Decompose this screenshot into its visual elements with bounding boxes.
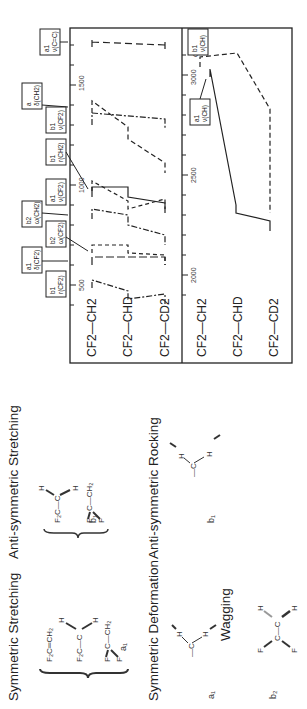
tick-3000: 3000	[190, 69, 197, 85]
svg-text:b1: b1	[49, 286, 56, 294]
tick-500: 500	[78, 279, 85, 291]
molecule-sym-stretch: F₂C═CH₂ F₂C—C H H F C—CH₂ F	[40, 617, 128, 678]
svg-text:δ(CH2): δ(CH2)	[33, 85, 41, 106]
svg-text:F: F	[103, 657, 112, 662]
tick-1000: 1000	[78, 177, 85, 193]
svg-text:F₂C═CH₂: F₂C═CH₂	[45, 628, 54, 662]
svg-text:H: H	[91, 617, 100, 623]
box-b2-omega-cf2: b2 ω(CF2)	[46, 221, 88, 251]
box-a1-delta-cf2: a1 δ(CF2)	[22, 247, 68, 273]
box-b1-nu-ch: b1 ν(CH)	[188, 29, 208, 55]
svg-text:—C: —C	[187, 643, 196, 657]
svg-text:ν(CH): ν(CH)	[199, 35, 207, 52]
box-a-delta-ch2: a δ(CH2)	[22, 83, 68, 109]
molecule-sym-deform: —C H H	[172, 625, 216, 657]
svg-text:H: H	[175, 631, 184, 637]
panel2-lines	[200, 53, 270, 231]
svg-text:H: H	[201, 631, 210, 637]
line-nu-ch-a1	[210, 69, 270, 231]
axis-ticks-panel2	[182, 55, 188, 295]
svg-text:F: F	[290, 648, 299, 653]
chart-frame	[70, 28, 292, 363]
svg-text:b1: b1	[191, 44, 198, 52]
svg-text:ν(CH): ν(CH)	[201, 105, 209, 122]
molecule-wagging: F F C—C H H	[256, 605, 299, 653]
molecule-anti-stretch: F₂C—C H H F C—CH₂ F	[37, 483, 108, 538]
svg-text:F: F	[115, 657, 124, 662]
box-a1-nu-ch: a1 ν(CH)	[190, 79, 210, 125]
svg-text:H: H	[57, 617, 66, 623]
tick-2500: 2500	[190, 167, 197, 183]
svg-text:a1: a1	[193, 114, 200, 122]
svg-text:ω(CF2): ω(CF2)	[57, 222, 65, 244]
line-delta-cf2	[92, 257, 165, 265]
box-a1-nu-cf2: a1 ν(CF2)	[46, 179, 66, 205]
svg-text:r(CH2): r(CH2)	[57, 143, 65, 163]
svg-text:C—CH₂: C—CH₂	[103, 621, 112, 649]
axis-ticks-panel1	[70, 45, 76, 305]
svg-text:b2: b2	[25, 216, 32, 224]
svg-text:H: H	[256, 605, 265, 611]
svg-text:C—C: C—C	[273, 621, 282, 641]
tick-1500: 1500	[78, 75, 85, 91]
row-label-cf2-ch2: CF2—CH2	[85, 298, 99, 357]
rotated-figure: Symmetric Stretching Anti-symmetric Stre…	[0, 0, 307, 709]
row-label2-cf2-chd: CF2—CHD	[231, 296, 245, 357]
svg-text:H: H	[71, 485, 80, 491]
svg-text:ω(CH2): ω(CH2)	[33, 202, 41, 224]
svg-text:F₂C—C: F₂C—C	[75, 634, 84, 662]
tick-2000: 2000	[190, 267, 197, 283]
line-omega-ch2	[92, 209, 165, 245]
row-label2-cf2-ch2: CF2—CH2	[195, 298, 209, 357]
line-nu-cf2-b1	[92, 113, 165, 129]
line-nu-cc	[92, 37, 165, 49]
svg-text:ν(CF2): ν(CF2)	[57, 110, 65, 130]
svg-text:a1: a1	[43, 44, 50, 52]
svg-text:F: F	[85, 518, 94, 523]
svg-text:a1: a1	[25, 262, 32, 270]
row-label2-cf2-cd2: CF2—CD2	[267, 298, 281, 357]
svg-text:H: H	[37, 485, 46, 491]
molecule-anti-rock: —C H H	[170, 435, 220, 477]
svg-text:r(CF2): r(CF2)	[57, 275, 65, 294]
row-label-cf2-chd: CF2—CHD	[121, 296, 135, 357]
svg-text:ν(C=C): ν(C=C)	[51, 31, 59, 52]
box-b1-nu-cf2: b1 ν(CF2)	[46, 107, 66, 133]
row-label-cf2-cd2: CF2—CD2	[158, 298, 172, 357]
svg-text:C—CH₂: C—CH₂	[85, 483, 94, 511]
svg-text:b1: b1	[49, 154, 56, 162]
diagram-svg: F₂C═CH₂ F₂C—C H H F C—CH₂ F F₂C—C H H F …	[0, 0, 307, 709]
svg-text:δ(CF2): δ(CF2)	[33, 250, 41, 270]
line-omega-cf2	[92, 245, 165, 265]
panel1-lines	[92, 37, 165, 304]
box-b1-r-cf2: b1 r(CF2)	[46, 271, 66, 297]
svg-text:a1: a1	[49, 194, 56, 202]
svg-text:H: H	[205, 451, 214, 457]
svg-text:b1: b1	[49, 122, 56, 130]
svg-text:H: H	[290, 605, 299, 611]
svg-text:F₂C—C: F₂C—C	[53, 495, 62, 523]
svg-text:b2: b2	[49, 236, 56, 244]
svg-text:—C: —C	[189, 463, 198, 477]
box-a1-nu-cc: a1 ν(C=C)	[40, 29, 68, 55]
svg-text:a: a	[25, 102, 32, 106]
svg-text:ν(CF2): ν(CF2)	[57, 182, 65, 202]
svg-text:F: F	[256, 648, 265, 653]
line-delta-ch2	[92, 101, 165, 173]
